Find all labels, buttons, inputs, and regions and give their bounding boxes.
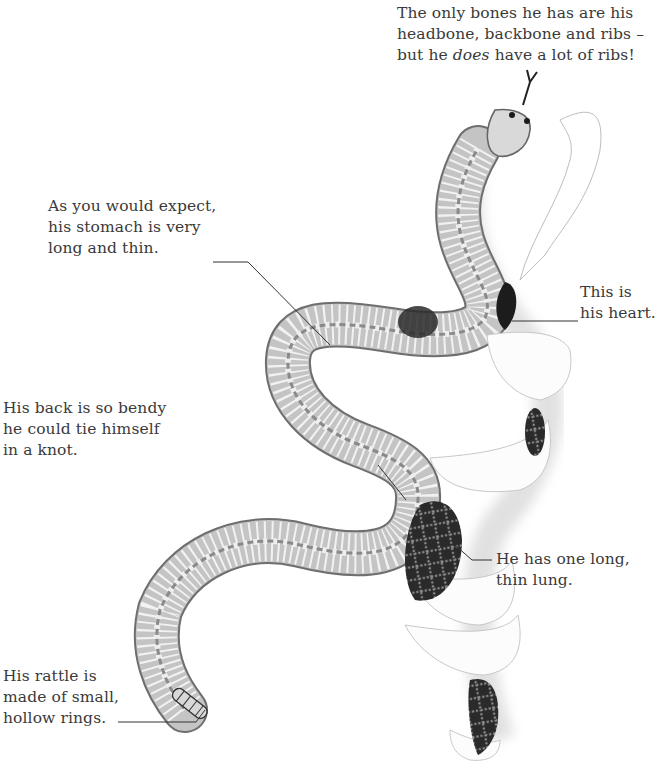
skin-wrap-back [520,112,601,280]
caption-heart: This is his heart. [580,282,656,324]
stomach-organ [398,306,438,338]
caption-stomach: As you would expect, his stomach is very… [48,196,216,259]
caption-rattle: His rattle is made of small, hollow ring… [3,666,119,729]
caption-back-line-2: he could tie himself [3,419,166,440]
snake-illustration [0,0,672,772]
skin-patch-right [525,408,545,456]
tongue [523,70,537,105]
caption-lung-line-1: He has one long, [496,549,630,570]
caption-back-line-3: in a knot. [3,440,166,461]
caption-bones-line-3: but he does have a lot of ribs! [397,45,644,66]
caption-stomach-line-2: his stomach is very [48,217,216,238]
caption-rattle-line-2: made of small, [3,687,119,708]
caption-bones-line-1: The only bones he has are his [397,3,644,24]
caption-rattle-line-1: His rattle is [3,666,119,687]
caption-lung-line-2: thin lung. [496,570,630,591]
snake-head [487,110,530,157]
caption-bones-line-2: headbone, backbone and ribs – [397,24,644,45]
caption-bones-emphasis: does [453,46,490,64]
caption-stomach-line-3: long and thin. [48,238,216,259]
caption-back-line-1: His back is so bendy [3,398,166,419]
caption-bones-prefix: but he [397,46,453,64]
caption-lung: He has one long, thin lung. [496,549,630,591]
caption-bones-suffix: have a lot of ribs! [490,46,635,64]
caption-bones: The only bones he has are his headbone, … [397,3,644,66]
caption-heart-line-2: his heart. [580,303,656,324]
caption-back: His back is so bendy he could tie himsel… [3,398,166,461]
caption-heart-line-1: This is [580,282,656,303]
caption-rattle-line-3: hollow rings. [3,708,119,729]
caption-stomach-line-1: As you would expect, [48,196,216,217]
